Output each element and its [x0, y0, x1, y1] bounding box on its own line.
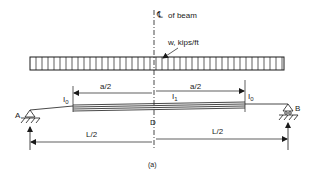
support-b-label: B [295, 104, 300, 113]
midpoint-label: D [150, 118, 156, 127]
inertia-right-label: I0 [248, 92, 254, 102]
L-left-label: L/2 [86, 130, 98, 139]
inertia-left-label: I0 [63, 95, 69, 105]
load-label: w, kips/ft [167, 38, 199, 47]
distributed-load [30, 57, 284, 70]
centerline-symbol: ℄ [156, 10, 163, 20]
beam-diagram: ℄ of beam w, kips/ft a/2 a/2 I0 I1 I0 A [0, 0, 315, 186]
L-right-label: L/2 [212, 127, 224, 136]
beam-outer-left [30, 106, 73, 110]
figure-caption: (a) [148, 161, 157, 169]
pin-support-icon [21, 110, 40, 123]
inertia-middle-label: I1 [172, 92, 178, 102]
a-left-label: a/2 [100, 82, 112, 91]
support-a-label: A [15, 111, 21, 120]
a-right-label: a/2 [190, 82, 202, 91]
centerline-label: of beam [168, 11, 197, 20]
beam-stiffened-section [73, 102, 245, 111]
